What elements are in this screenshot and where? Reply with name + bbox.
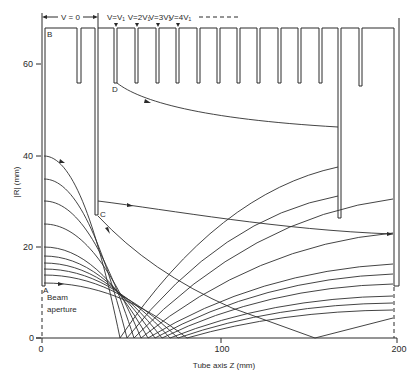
beam-aperture-label-line1: Beam xyxy=(47,293,68,302)
arrow-ray-a-icon xyxy=(58,282,64,286)
x-tick-100: 100 xyxy=(214,344,229,354)
trajectory-ray-9 xyxy=(44,275,393,338)
x-ticks xyxy=(42,338,397,343)
bracket-arrow-right-icon xyxy=(93,15,98,19)
right-outer-wall xyxy=(394,18,399,286)
label-v2: V=2V₁ xyxy=(128,13,151,22)
trajectory-from-c-upper xyxy=(98,201,393,234)
y-axis-label: |R| (mm) xyxy=(12,166,21,197)
arrow-ray-c-upper-icon xyxy=(127,203,133,207)
trajectory-ray-5 xyxy=(44,247,393,338)
label-v1: V=V₁ xyxy=(107,13,125,22)
y-tick-0: 0 xyxy=(29,333,34,343)
v4-pointer-icon xyxy=(176,23,180,27)
y-tick-40: 40 xyxy=(23,151,33,161)
arrow-ray-1-icon xyxy=(59,159,65,163)
y-ticks xyxy=(36,64,41,338)
y-tick-60: 60 xyxy=(23,59,33,69)
trajectory-ray-8 xyxy=(44,269,393,338)
label-v0: V = 0 xyxy=(61,13,80,22)
trajectory-ray-3 xyxy=(44,199,393,338)
x-tick-0: 0 xyxy=(38,344,43,354)
arrow-ray-end-icon xyxy=(387,232,393,236)
trajectory-from-d xyxy=(117,83,338,127)
potential-labels: V = 0 V=V₁ V=2V₁ V=3V₁ V=4V₁ xyxy=(42,13,238,27)
trajectory-ray-10 xyxy=(44,283,393,338)
point-label-c: C xyxy=(100,210,106,219)
point-label-d: D xyxy=(112,85,118,94)
electron-optics-diagram: V = 0 V=V₁ V=2V₁ V=3V₁ V=4V₁ B D C A 60 … xyxy=(0,0,420,377)
beam-aperture-label-line2: aperture xyxy=(47,305,77,314)
x-tick-200: 200 xyxy=(391,344,406,354)
bracket-arrow-left-icon xyxy=(42,15,47,19)
trajectory-ray-2 xyxy=(44,179,338,338)
x-axis-label: Tube axis Z (mm) xyxy=(193,361,256,370)
trajectory-ray-7 xyxy=(44,263,393,338)
beam-aperture: Beam aperture xyxy=(42,287,394,338)
v3-pointer-icon xyxy=(156,23,160,27)
point-label-b: B xyxy=(47,30,52,39)
direction-arrows xyxy=(58,99,393,286)
y-tick-20: 20 xyxy=(23,242,33,252)
v2-pointer-icon xyxy=(135,23,139,27)
v1-pointer-icon xyxy=(114,23,118,27)
label-v4: V=4V₁ xyxy=(169,13,192,22)
axes: 60 40 20 0 0 100 200 Tube axis Z (mm) |R… xyxy=(12,59,407,370)
